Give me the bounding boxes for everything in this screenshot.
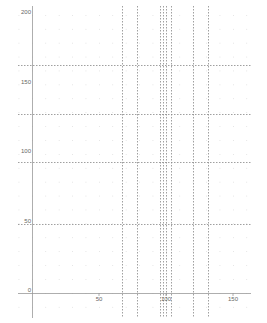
- y-tick-label: 200: [21, 9, 32, 15]
- x-tick-label: 100: [161, 296, 172, 302]
- chart-canvas: 50100150050100150200: [0, 0, 267, 323]
- x-tick-label: 50: [96, 296, 103, 302]
- y-tick-label: 50: [24, 218, 31, 224]
- vertical-reference-lines: [123, 6, 209, 318]
- y-tick-label: 150: [21, 79, 32, 85]
- y-tick-label: 100: [21, 148, 32, 154]
- axes: [18, 6, 251, 318]
- tick-labels: 50100150050100150200: [21, 9, 239, 302]
- horizontal-reference-lines: [18, 66, 251, 225]
- y-tick-label: 0: [28, 287, 32, 293]
- grid-dots: [19, 15, 247, 308]
- x-tick-label: 150: [228, 296, 239, 302]
